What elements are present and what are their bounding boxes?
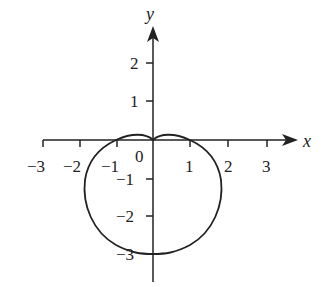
- y-tick-label: −1: [116, 170, 134, 189]
- y-tick-label: −3: [116, 245, 134, 264]
- x-tick-label: −3: [27, 157, 45, 176]
- x-axis-label: x: [302, 131, 311, 151]
- y-tick-label: 2: [130, 54, 139, 73]
- x-tick-label: 2: [224, 157, 233, 176]
- y-tick-label: −2: [116, 207, 134, 226]
- x-tick-label: −2: [63, 157, 81, 176]
- polar-plot: x y 0 −3 −2 −1 1 2 3 2 1 −1 −2 −3: [0, 0, 332, 287]
- x-tick-label: 3: [262, 157, 271, 176]
- origin-label: 0: [135, 147, 144, 166]
- x-ticks: [43, 140, 267, 147]
- y-tick-label: 1: [130, 92, 139, 111]
- y-ticks: [146, 63, 153, 254]
- y-axis-label: y: [144, 4, 154, 24]
- x-tick-label: 1: [185, 157, 194, 176]
